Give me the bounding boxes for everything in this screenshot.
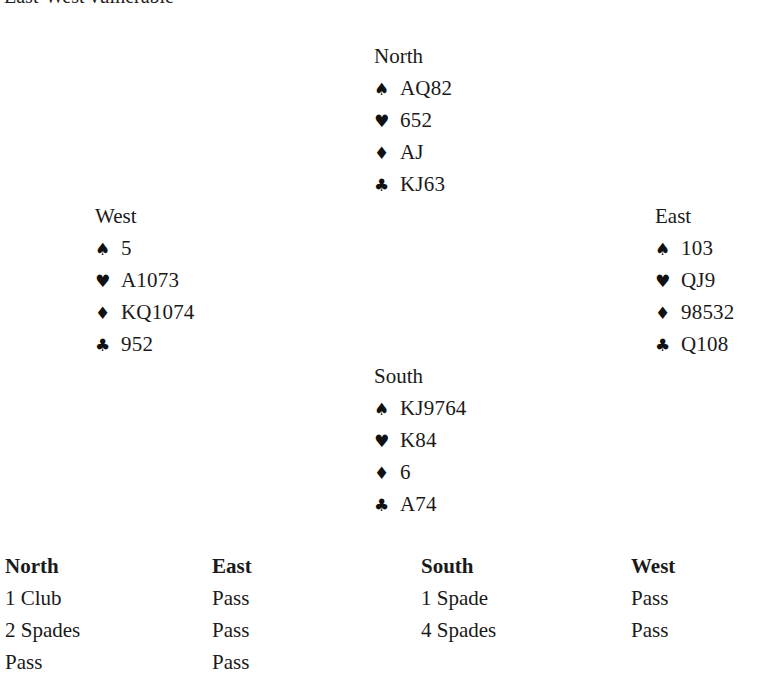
heart-icon: ♥	[374, 425, 400, 457]
west-hearts: ♥A1073	[95, 264, 195, 296]
diamond-icon: ♦	[374, 137, 400, 169]
auction-header-east: East	[212, 550, 252, 582]
seat-label-north: North	[374, 40, 452, 72]
hand-west: West ♠5 ♥A1073 ♦KQ1074 ♣952	[95, 200, 195, 360]
seat-label-east: East	[655, 200, 735, 232]
club-icon: ♣	[374, 169, 400, 201]
auction-bid: Pass	[212, 646, 252, 678]
club-icon: ♣	[95, 329, 121, 361]
auction-bid: 1 Spade	[421, 582, 496, 614]
auction-column-west: West Pass Pass	[631, 550, 675, 646]
auction-bid: 1 Club	[5, 582, 80, 614]
north-diamonds: ♦AJ	[374, 136, 452, 168]
diamond-icon: ♦	[374, 457, 400, 489]
south-hearts: ♥K84	[374, 424, 467, 456]
south-spades: ♠KJ9764	[374, 392, 467, 424]
east-spades: ♠103	[655, 232, 735, 264]
auction-header-south: South	[421, 550, 496, 582]
seat-label-south: South	[374, 360, 467, 392]
north-spades: ♠AQ82	[374, 72, 452, 104]
west-clubs: ♣952	[95, 328, 195, 360]
spade-icon: ♠	[95, 233, 121, 265]
east-hearts: ♥QJ9	[655, 264, 735, 296]
auction-bid: 4 Spades	[421, 614, 496, 646]
vulnerability-caption: East-West vulnerable	[4, 0, 174, 6]
auction-bid: Pass	[631, 582, 675, 614]
heart-icon: ♥	[374, 105, 400, 137]
hand-east: East ♠103 ♥QJ9 ♦98532 ♣Q108	[655, 200, 735, 360]
south-clubs: ♣A74	[374, 488, 467, 520]
west-spades: ♠5	[95, 232, 195, 264]
club-icon: ♣	[655, 329, 681, 361]
hand-north: North ♠AQ82 ♥652 ♦AJ ♣KJ63	[374, 40, 452, 200]
seat-label-west: West	[95, 200, 195, 232]
auction-bid: 2 Spades	[5, 614, 80, 646]
spade-icon: ♠	[374, 73, 400, 105]
auction-bid: Pass	[212, 614, 252, 646]
auction-header-north: North	[5, 550, 80, 582]
north-hearts: ♥652	[374, 104, 452, 136]
heart-icon: ♥	[95, 265, 121, 297]
spade-icon: ♠	[374, 393, 400, 425]
south-diamonds: ♦6	[374, 456, 467, 488]
spade-icon: ♠	[655, 233, 681, 265]
auction-column-south: South 1 Spade 4 Spades	[421, 550, 496, 646]
club-icon: ♣	[374, 489, 400, 521]
east-diamonds: ♦98532	[655, 296, 735, 328]
diamond-icon: ♦	[95, 297, 121, 329]
diamond-icon: ♦	[655, 297, 681, 329]
auction-bid: Pass	[5, 646, 80, 678]
west-diamonds: ♦KQ1074	[95, 296, 195, 328]
hand-south: South ♠KJ9764 ♥K84 ♦6 ♣A74	[374, 360, 467, 520]
heart-icon: ♥	[655, 265, 681, 297]
auction-column-north: North 1 Club 2 Spades Pass	[5, 550, 80, 678]
auction-column-east: East Pass Pass Pass	[212, 550, 252, 678]
auction-header-west: West	[631, 550, 675, 582]
north-clubs: ♣KJ63	[374, 168, 452, 200]
auction-bid: Pass	[212, 582, 252, 614]
east-clubs: ♣Q108	[655, 328, 735, 360]
auction-bid: Pass	[631, 614, 675, 646]
